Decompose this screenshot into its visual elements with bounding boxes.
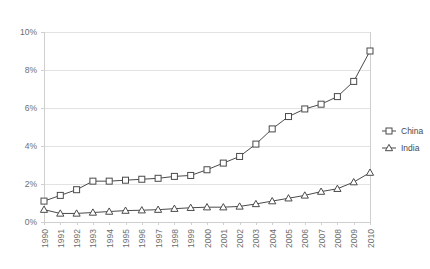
data-point-marker [106,178,112,184]
data-point-marker [90,178,96,184]
legend-label: India [401,143,420,153]
x-tick-label: 1991 [56,229,66,248]
y-tick-label: 2% [25,179,38,189]
data-point-marker [220,160,226,166]
data-point-marker [366,169,373,175]
x-tick-label: 1995 [121,229,131,248]
data-point-marker [367,48,373,54]
y-axis-tick-labels: 0%2%4%6%8%10% [20,27,44,227]
x-tick-label: 2002 [235,229,245,248]
data-point-marker [302,106,308,112]
data-point-marker [155,175,161,181]
x-tick-label: 2008 [333,229,343,248]
x-tick-label: 1998 [170,229,180,248]
y-tick-label: 4% [25,141,38,151]
x-tick-label: 2004 [268,229,278,248]
data-point-marker [204,167,210,173]
legend-label: China [401,126,423,136]
x-tick-label: 2005 [284,229,294,248]
data-point-marker [286,114,292,120]
data-series-group [40,48,373,216]
x-tick-label: 1999 [186,229,196,248]
data-point-marker [139,176,145,182]
x-tick-label: 1994 [105,229,115,248]
x-tick-label: 2006 [300,229,310,248]
legend: ChinaIndia [382,126,423,153]
chart-canvas: 0%2%4%6%8%10% 19901991199219931994199519… [0,0,430,269]
x-tick-label: 2010 [366,229,376,248]
data-point-marker [237,153,243,159]
x-tick-label: 1990 [40,229,50,248]
data-point-marker [123,177,129,183]
x-tick-label: 1997 [154,229,164,248]
series-china [41,48,373,204]
x-tick-label: 2009 [349,229,359,248]
data-point-marker [171,173,177,179]
y-tick-label: 8% [25,65,38,75]
data-point-marker [351,78,357,84]
data-point-marker [334,94,340,100]
series-india [40,169,373,216]
x-tick-label: 1996 [137,229,147,248]
data-point-marker [334,185,341,191]
line-chart: 0%2%4%6%8%10% 19901991199219931994199519… [0,0,430,269]
data-point-marker [57,192,63,198]
data-point-marker [350,179,357,185]
data-point-marker [318,101,324,107]
legend-item-india[interactable]: India [382,143,420,153]
x-tick-label: 2007 [317,229,327,248]
data-point-marker [188,172,194,178]
x-axis-tick-labels: 1990199119921993199419951996199719981999… [40,222,376,248]
y-tick-label: 6% [25,103,38,113]
x-tick-label: 2003 [251,229,261,248]
x-tick-label: 2001 [219,229,229,248]
y-tick-label: 10% [20,27,37,37]
data-point-marker [386,128,392,134]
data-point-marker [253,141,259,147]
x-tick-label: 2000 [203,229,213,248]
data-point-marker [41,198,47,204]
x-tick-label: 1993 [88,229,98,248]
data-point-marker [40,206,47,212]
x-tick-label: 1992 [72,229,82,248]
legend-item-china[interactable]: China [382,126,423,136]
data-point-marker [74,187,80,193]
data-point-marker [269,126,275,132]
y-tick-label: 0% [25,217,38,227]
